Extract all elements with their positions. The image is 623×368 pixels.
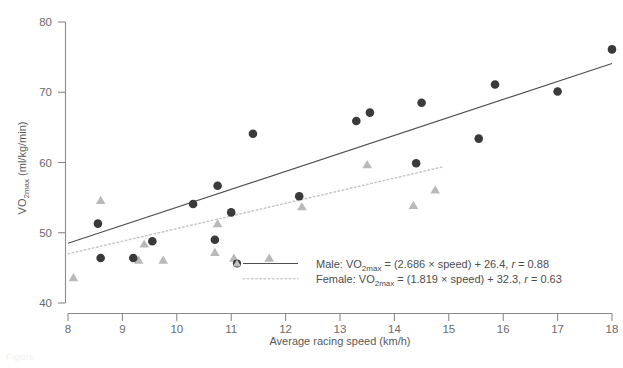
data-point-male	[213, 181, 222, 190]
x-tick-label: 14	[388, 323, 401, 335]
data-point-male	[211, 235, 220, 244]
x-axis-title: Average racing speed (km/h)	[269, 335, 410, 347]
data-point-female	[213, 219, 223, 227]
legend-male-label: Male: VO2max = (2.686 × speed) + 26.4, r…	[316, 258, 549, 273]
x-tick-label: 18	[606, 323, 619, 335]
x-tick-label: 16	[497, 323, 510, 335]
y-tick-label: 60	[39, 157, 52, 169]
data-point-male	[189, 200, 198, 209]
legend: Male: VO2max = (2.686 × speed) + 26.4, r…	[233, 258, 562, 288]
data-point-male	[94, 219, 103, 228]
data-point-male	[412, 159, 421, 168]
x-tick-label: 11	[225, 323, 237, 335]
data-point-male	[96, 254, 105, 263]
figure-container: 4050607080 89101112131415161718 Average …	[0, 0, 623, 368]
y-tick-label: 70	[39, 86, 52, 98]
regression-line-male	[68, 63, 612, 243]
legend-female-label: Female: VO2max = (1.819 × speed) + 32.3,…	[316, 273, 562, 288]
scatter-plot: 4050607080 89101112131415161718 Average …	[0, 0, 623, 368]
y-tick-label-group: 4050607080	[39, 16, 52, 309]
x-tick-label: 17	[551, 323, 564, 335]
y-tick-group	[58, 22, 66, 303]
x-tick-label: 13	[334, 323, 347, 335]
data-point-male	[366, 108, 375, 117]
data-point-male	[148, 237, 157, 246]
regression-line-group	[68, 63, 612, 253]
data-point-male	[352, 117, 361, 126]
x-tick-label-group: 89101112131415161718	[65, 323, 619, 335]
data-point-female	[264, 253, 274, 261]
data-point-male	[417, 98, 426, 107]
data-point-male	[295, 192, 304, 201]
data-point-female	[362, 160, 372, 168]
data-point-female	[96, 196, 106, 204]
y-tick-label: 50	[39, 227, 52, 239]
figure-caption: Figure	[6, 352, 35, 362]
x-tick-label: 9	[119, 323, 125, 335]
y-tick-label: 40	[39, 297, 52, 309]
axis-group	[66, 22, 613, 314]
data-point-male	[474, 134, 483, 143]
data-point-male	[227, 208, 236, 217]
data-point-male	[491, 80, 500, 89]
x-tick-label: 12	[279, 323, 292, 335]
data-point-male	[608, 45, 617, 54]
y-tick-label: 80	[39, 16, 52, 28]
data-point-female	[430, 185, 440, 193]
data-point-male	[553, 87, 562, 96]
data-point-female	[69, 273, 79, 281]
data-point-female	[409, 201, 419, 209]
data-point-female	[210, 248, 220, 256]
data-point-female	[297, 202, 307, 210]
data-point-female	[139, 239, 149, 247]
data-point-male	[129, 254, 138, 263]
x-tick-group	[68, 314, 612, 322]
x-tick-label: 8	[65, 323, 71, 335]
y-axis-title: VO2max (ml/kg/min)	[16, 122, 31, 215]
x-tick-label: 10	[170, 323, 183, 335]
x-tick-label: 15	[442, 323, 455, 335]
data-point-female	[158, 256, 168, 264]
data-point-male	[249, 129, 258, 138]
regression-line-female	[68, 167, 443, 254]
